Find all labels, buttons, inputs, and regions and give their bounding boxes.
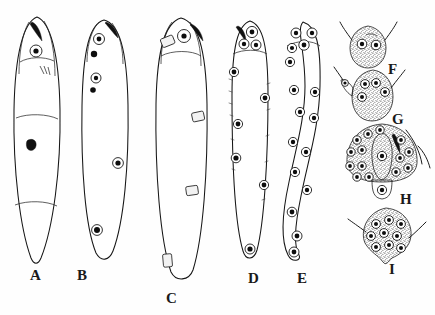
illustration-canvas bbox=[0, 0, 435, 315]
figure-plate: A B C D E F G H I bbox=[0, 0, 435, 315]
panel-label-i: I bbox=[389, 262, 395, 277]
panel-label-e: E bbox=[297, 271, 307, 286]
panel-label-c: C bbox=[166, 291, 177, 306]
panel-label-h: H bbox=[400, 192, 412, 207]
panel-label-g: G bbox=[392, 112, 404, 127]
specimen-b-drawing bbox=[78, 16, 134, 266]
panel-label-a: A bbox=[30, 268, 41, 283]
specimen-d-drawing bbox=[229, 20, 272, 266]
specimen-h-drawing bbox=[344, 120, 430, 199]
specimen-c-drawing bbox=[152, 14, 214, 286]
specimen-e-drawing bbox=[283, 20, 326, 264]
panel-label-f: F bbox=[388, 62, 397, 77]
specimen-i-drawing bbox=[348, 204, 426, 266]
panel-label-b: B bbox=[77, 268, 87, 283]
panel-label-d: D bbox=[248, 271, 259, 286]
specimen-a-drawing bbox=[10, 14, 70, 267]
